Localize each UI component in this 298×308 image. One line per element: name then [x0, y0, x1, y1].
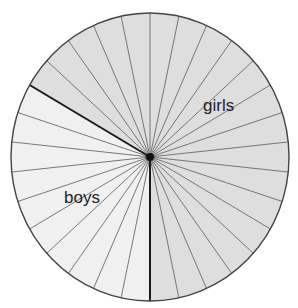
girls-label: girls	[203, 96, 234, 115]
pie-chart: girls boys	[0, 0, 298, 308]
center-dot	[146, 153, 154, 161]
boys-label: boys	[64, 188, 100, 207]
